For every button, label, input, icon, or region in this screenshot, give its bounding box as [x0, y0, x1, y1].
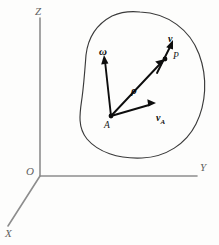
rigid-body-outline — [80, 12, 205, 158]
rho-vector-label: ρ — [131, 84, 137, 96]
point-a-label: A — [104, 120, 110, 130]
axis-label-z: Z — [35, 5, 41, 17]
kinematics-figure: Z Y X O ω ρ vA v P A — [0, 0, 219, 245]
point-p-label: P — [173, 51, 179, 61]
axis-label-y: Y — [200, 161, 206, 173]
omega-vector-shaft — [105, 61, 111, 116]
point-a-marker — [109, 114, 114, 119]
x-axis-line — [8, 176, 40, 226]
v-vector-label: v — [168, 33, 172, 44]
v-vector — [157, 40, 173, 73]
va-vector-label: vA — [156, 112, 165, 126]
axis-label-origin: O — [26, 165, 34, 177]
omega-vector-label: ω — [99, 45, 107, 57]
omega-vector — [101, 55, 111, 116]
axis-label-x: X — [5, 227, 12, 239]
vector-group — [101, 40, 173, 118]
va-vector-arrowhead — [147, 99, 156, 106]
va-vector-label-subscript: A — [160, 118, 165, 126]
point-p-marker — [163, 57, 168, 62]
